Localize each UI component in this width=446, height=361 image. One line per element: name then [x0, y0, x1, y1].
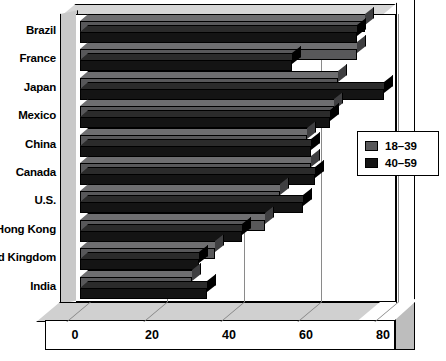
- bar-top-face: [80, 53, 300, 60]
- category-label: China: [0, 138, 56, 150]
- bar-top-face: [80, 139, 319, 146]
- legend-swatch-black: [365, 158, 378, 168]
- bar-top-face: [80, 14, 373, 21]
- legend-swatch-gray: [365, 141, 378, 151]
- category-label: Japan: [0, 81, 56, 93]
- bar-france-series-1: [80, 60, 292, 71]
- bar-india-series-1: [80, 288, 207, 299]
- legend-label-1: 40–59: [385, 157, 417, 169]
- category-label: United Kingdom: [0, 251, 56, 263]
- bar-front-face: [80, 259, 199, 270]
- bar-front-face: [80, 288, 207, 299]
- value-axis-tick-label: 80: [376, 328, 390, 342]
- bar-chart: BrazilFranceJapanMexicoChinaCanadaU.S.Ho…: [0, 0, 446, 361]
- bar-front-face: [80, 146, 311, 157]
- bar-china-series-1: [80, 146, 311, 157]
- bar-mexico-series-1: [80, 117, 330, 128]
- bar-top-face: [80, 213, 273, 220]
- bar-top-face: [80, 241, 223, 248]
- value-axis-tick-label: 20: [145, 328, 159, 342]
- value-axis-tick-label: 40: [222, 328, 236, 342]
- category-label: Mexico: [0, 109, 56, 121]
- axis-base-front: [45, 320, 395, 350]
- bar-top-face: [80, 184, 289, 191]
- bar-top-face: [80, 71, 346, 78]
- category-label: India: [0, 280, 56, 292]
- bar-top-face: [80, 82, 392, 89]
- bar-top-face: [80, 110, 339, 117]
- bar-united-kingdom-series-1: [80, 259, 199, 270]
- category-label: U.S.: [0, 194, 56, 206]
- value-axis-tick-label: 0: [72, 328, 79, 342]
- value-axis-tick-label: 60: [299, 328, 313, 342]
- category-label: Brazil: [0, 24, 56, 36]
- tick-mark-80: [374, 302, 399, 322]
- legend-item-0: 18–39: [365, 137, 438, 154]
- legend-item-1: 40–59: [365, 154, 438, 171]
- bar-top-face: [80, 252, 208, 259]
- bar-top-face: [80, 224, 250, 231]
- legend: 18–39 40–59: [357, 131, 439, 176]
- bar-top-face: [80, 25, 366, 32]
- axis-base-right: [395, 302, 415, 350]
- bar-front-face: [80, 60, 292, 71]
- legend-label-0: 18–39: [385, 140, 417, 152]
- bar-top-face: [80, 42, 366, 49]
- category-label: Canada: [0, 166, 56, 178]
- category-label: Hong Kong: [0, 223, 56, 235]
- bar-top-face: [80, 270, 200, 277]
- category-label: France: [0, 52, 56, 64]
- axis-base-top: [36, 302, 380, 322]
- bar-top-face: [80, 156, 319, 163]
- bar-top-face: [80, 195, 312, 202]
- bar-top-face: [80, 99, 342, 106]
- bar-top-face: [80, 167, 323, 174]
- bar-top-face: [80, 281, 215, 288]
- bar-front-face: [80, 117, 330, 128]
- bar-top-face: [80, 128, 315, 135]
